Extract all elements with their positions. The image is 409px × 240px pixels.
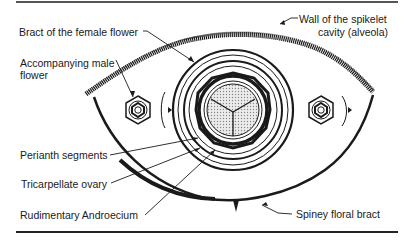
male-flower-right xyxy=(309,96,352,126)
label-spiney-floral-bract: Spiney floral bract xyxy=(296,208,380,220)
label-tricarpellate-ovary: Tricarpellate ovary xyxy=(21,178,107,190)
label-bract-female-flower: Bract of the female flower xyxy=(19,26,138,38)
label-accompanying-male-flower-line1: Accompanying male xyxy=(20,57,115,69)
label-accompanying-male-flower-line2: flower xyxy=(20,69,48,81)
label-spikelet-wall-line1: Wall of the spikelet xyxy=(299,13,387,25)
male-flower-left xyxy=(126,92,172,128)
label-perianth-segments: Perianth segments xyxy=(20,149,108,161)
label-rudimentary-androecium: Rudimentary Androecium xyxy=(20,209,138,221)
label-spikelet-wall-line2: cavity (alveola) xyxy=(318,26,388,38)
bottom-rule xyxy=(16,231,398,233)
